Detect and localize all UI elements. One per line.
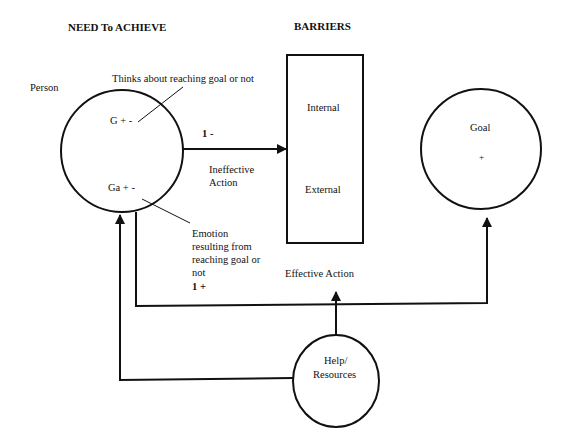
thinks-annotation: Thinks about reaching goal or not <box>112 73 254 85</box>
diagram-lines <box>0 0 566 448</box>
effective-path <box>136 212 487 306</box>
effective-sign: 1 + <box>192 281 206 293</box>
goal-sign: + <box>479 151 484 163</box>
barriers-heading: BARRIERS <box>294 20 351 32</box>
effective-label: Effective Action <box>285 268 354 280</box>
goal-label: Goal <box>470 122 490 134</box>
goal-circle <box>421 89 541 209</box>
ineffective-sign: 1 - <box>202 128 213 140</box>
person-label: Person <box>30 82 59 94</box>
internal-label: Internal <box>307 102 340 114</box>
ineffective-label: Ineffective Action <box>209 163 254 189</box>
g-label: G + - <box>110 115 132 127</box>
emotion-annotation: Emotion resulting from reaching goal or … <box>192 227 260 279</box>
help-label-line2: Resources <box>313 369 356 381</box>
barriers-box <box>287 55 363 243</box>
emotion-leader-line <box>142 199 190 223</box>
help-circle <box>293 335 379 427</box>
thinks-leader-line <box>138 87 183 122</box>
ga-label: Ga + - <box>108 182 135 194</box>
external-label: External <box>305 184 341 196</box>
need-to-achieve-heading: NEED To ACHIEVE <box>68 21 166 33</box>
help-label-line1: Help/ <box>324 355 347 367</box>
